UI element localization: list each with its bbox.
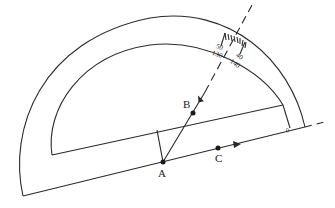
label-a: A <box>158 167 166 179</box>
label-b: B <box>183 98 190 110</box>
point-a <box>161 160 166 165</box>
arrow-ac-icon <box>233 141 241 148</box>
protractor-inner-edge <box>51 44 283 155</box>
baseline-extension <box>305 121 328 127</box>
point-b <box>191 111 196 116</box>
label-c: C <box>215 152 222 164</box>
protractor-diagram: A B C 50 130 40 140 0 <box>0 0 335 208</box>
point-c <box>216 146 221 151</box>
center-perpendicular <box>157 130 163 162</box>
scale-zero: 0 <box>285 127 289 134</box>
scale-130: 130 <box>211 49 224 60</box>
ray-ab-extension <box>205 5 252 92</box>
protractor-inner-right <box>283 105 290 128</box>
protractor-inner-base <box>52 105 283 155</box>
arrow-ab-icon <box>195 95 205 104</box>
